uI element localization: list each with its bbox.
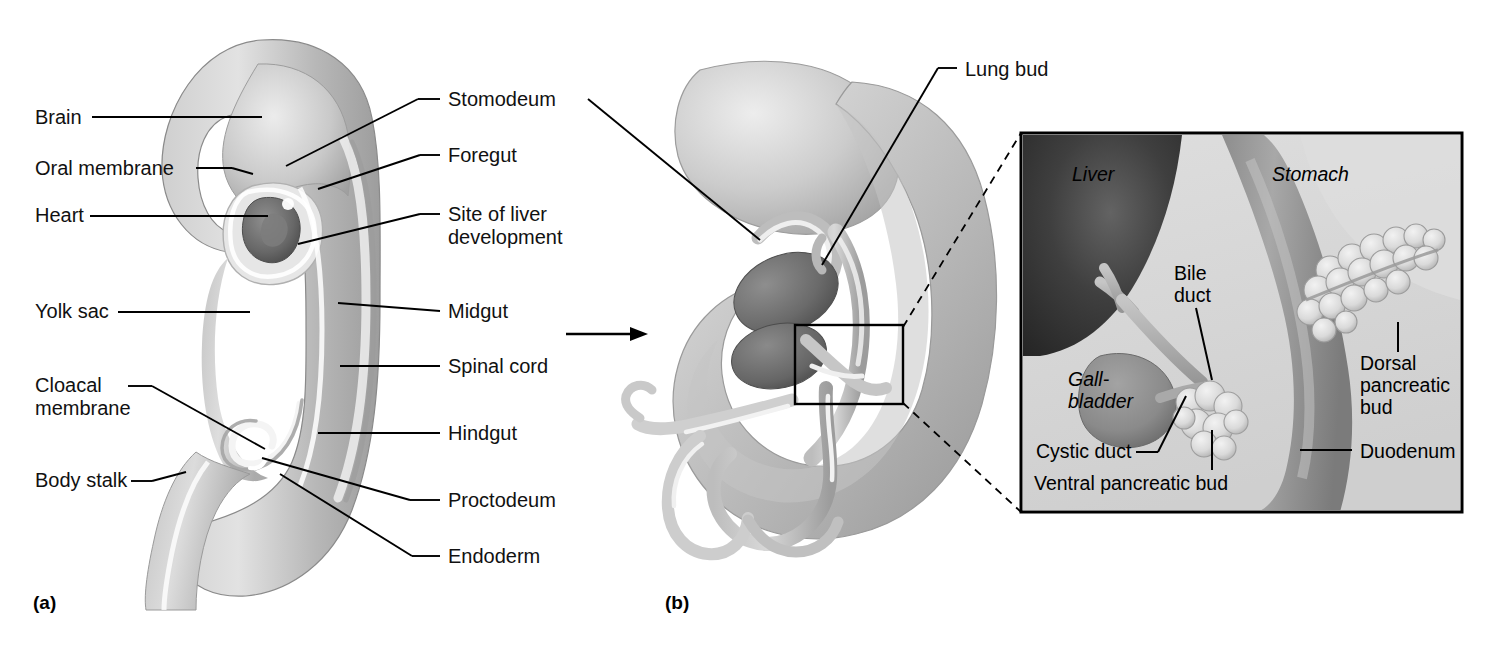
caption-panel-b: (b) (665, 592, 689, 614)
label-dorsal-pancreatic-bud-line1: Dorsal (1360, 352, 1416, 374)
label-hindgut: Hindgut (448, 422, 517, 445)
panel-b-embryo (626, 61, 997, 554)
label-stomach: Stomach (1272, 163, 1349, 185)
label-proctodeum: Proctodeum (448, 489, 556, 512)
label-liver: Liver (1072, 163, 1114, 185)
label-body-stalk: Body stalk (35, 469, 127, 492)
figure-canvas: Brain Oral membrane Heart Yolk sac Cloac… (0, 0, 1487, 664)
label-stomodeum: Stomodeum (448, 88, 556, 111)
label-gallbladder-line1: Gall- (1068, 368, 1109, 390)
panel-a-embryo (145, 40, 380, 610)
label-ventral-pancreatic-bud: Ventral pancreatic bud (1034, 472, 1228, 494)
label-site-of-liver-development-line1: Site of liver (448, 203, 547, 226)
label-bile-duct-line1: Bile (1174, 262, 1207, 284)
label-spinal-cord: Spinal cord (448, 355, 548, 378)
label-dorsal-pancreatic-bud-line3: bud (1360, 396, 1393, 418)
label-lung-bud: Lung bud (965, 58, 1048, 81)
label-cystic-duct: Cystic duct (1036, 440, 1131, 462)
label-brain: Brain (35, 106, 82, 129)
label-dorsal-pancreatic-bud-line2: pancreatic (1360, 374, 1450, 396)
caption-panel-a: (a) (33, 592, 56, 614)
label-cloacal-membrane-line2: membrane (35, 397, 131, 420)
label-bile-duct-line2: duct (1174, 284, 1211, 306)
progression-arrow (566, 327, 648, 341)
label-endoderm: Endoderm (448, 545, 540, 568)
label-foregut: Foregut (448, 144, 517, 167)
figure-artwork (0, 0, 1487, 664)
label-duodenum: Duodenum (1360, 440, 1455, 462)
label-oral-membrane: Oral membrane (35, 157, 174, 180)
label-cloacal-membrane-line1: Cloacal (35, 374, 102, 397)
label-yolk-sac: Yolk sac (35, 300, 109, 323)
label-site-of-liver-development-line2: development (448, 226, 563, 249)
label-heart: Heart (35, 204, 84, 227)
label-midgut: Midgut (448, 300, 508, 323)
label-gallbladder-line2: bladder (1068, 390, 1133, 412)
